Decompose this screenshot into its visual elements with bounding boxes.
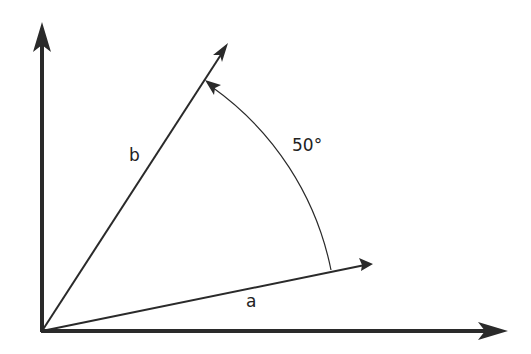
vector-a-arrowhead-icon [359, 258, 373, 271]
vector-angle-diagram: b a 50° [0, 0, 531, 354]
angle-arc [205, 80, 331, 270]
vector-b [42, 43, 228, 331]
x-axis [41, 322, 508, 340]
diagram-svg: b a 50° [0, 0, 531, 354]
vector-a-label: a [246, 291, 256, 311]
vector-b-label: b [129, 145, 140, 165]
vector-a [42, 258, 373, 331]
angle-label: 50° [292, 135, 322, 155]
y-axis [33, 22, 51, 332]
vector-b-arrowhead-icon [213, 43, 228, 62]
angle-arc-arrowhead-icon [205, 80, 221, 95]
